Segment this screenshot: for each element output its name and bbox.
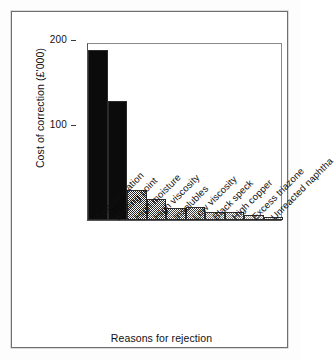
y-axis-title: Cost of correction (£'000) [34,33,46,183]
bar [108,101,128,221]
bar [88,50,108,220]
plot-area [87,43,282,221]
y-axis-tick-mark [71,40,76,41]
bar [166,208,186,220]
bar [225,212,245,220]
bars-container [88,44,281,220]
bar [186,207,206,220]
x-axis-title: Reasons for rejection [23,332,300,344]
bar [264,217,284,220]
bar [147,199,167,220]
figure-frame: Cost of correction (£'000) 100200 Contam… [11,11,288,348]
bar [127,190,147,221]
y-axis-tick-mark [71,125,76,126]
bar [244,215,264,220]
bar [205,212,225,220]
